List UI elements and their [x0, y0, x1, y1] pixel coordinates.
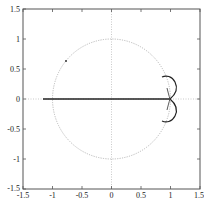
y-tick-label: 1.5	[10, 5, 20, 14]
y-tick-label: 1	[16, 35, 20, 44]
x-tick-label: -1	[49, 191, 56, 200]
y-tick-label: 0	[16, 95, 20, 104]
lower-loop-inner	[167, 99, 170, 110]
x-tick-label: 1	[169, 191, 173, 200]
y-tick-label: -1.5	[7, 184, 20, 193]
y-tick-labels: 1.5 1 0.5 0 -0.5 -1 -1.5	[7, 5, 20, 193]
y-tick-label: 0.5	[10, 65, 20, 74]
y-tick-label: -0.5	[7, 125, 20, 134]
x-tick-label: -0.5	[76, 191, 89, 200]
x-tick-label: 0	[110, 191, 114, 200]
upper-loop-inner	[167, 88, 170, 99]
x-tick-labels: -1.5 -1 -0.5 0 0.5 1 1.5	[17, 191, 204, 200]
y-tick-label: -1	[13, 155, 20, 164]
marker-point	[65, 60, 67, 62]
x-tick-label: 0.5	[136, 191, 146, 200]
x-tick-label: 1.5	[194, 191, 204, 200]
chart-canvas: -1.5 -1 -0.5 0 0.5 1 1.5 1.5 1 0.5 0 -0.…	[0, 0, 204, 201]
